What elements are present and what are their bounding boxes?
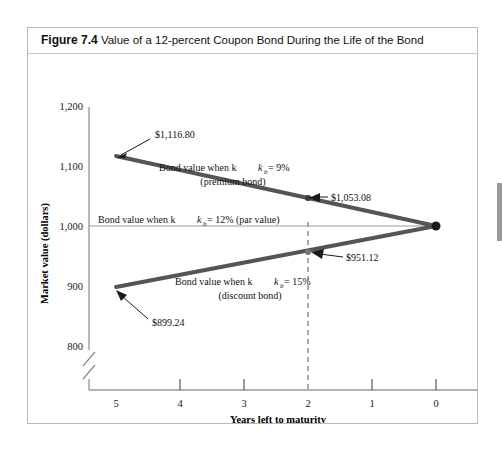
y-axis-title: Market value (dollars) <box>39 203 51 304</box>
y-tick-label-1000: 1,000 <box>59 221 83 232</box>
x-axis-title: Years left to maturity <box>230 414 327 423</box>
par-label-kb: k <box>197 214 202 225</box>
x-tick-label-4: 4 <box>177 398 183 409</box>
x-tick-label-2: 2 <box>305 398 310 409</box>
x-tick-label-3: 3 <box>241 398 246 409</box>
y-tick-label-1100: 1,100 <box>59 161 83 172</box>
annotation-discount-start: $899.24 <box>116 290 185 328</box>
annotation-premium-line-label: Bond value when k k b = 9% (premium bond… <box>159 162 289 188</box>
premium-label-line2: (premium bond) <box>200 176 265 188</box>
y-axis-break-mark-bottom <box>83 365 95 379</box>
y-tick-label-900: 900 <box>67 281 83 292</box>
discount-label-kb: k <box>274 276 279 287</box>
par-label-part1: Bond value when k <box>98 214 176 225</box>
discount-label-line1-part1: Bond value when k <box>175 276 253 287</box>
annotation-discount-midpoint-label: $951.12 <box>346 252 379 263</box>
annotation-discount-midpoint: $951.12 <box>311 249 379 263</box>
x-tick-label-5: 5 <box>113 398 118 409</box>
premium-label-kb: k <box>258 162 263 173</box>
y-axis-break-mark-top <box>83 352 95 366</box>
discount-label-line2: (discount bond) <box>218 290 281 302</box>
annotation-discount-line-label: Bond value when k k b = 15% (discount bo… <box>175 276 310 302</box>
annotation-premium-midpoint-label: $1,053.08 <box>331 192 371 203</box>
chart-plot-area: 1,200 1,100 1,000 900 800 Market value (… <box>28 54 477 423</box>
discount-year2-marker <box>305 249 311 255</box>
x-tick-label-0: 0 <box>433 398 438 409</box>
y-tick-label-1200: 1,200 <box>59 101 83 112</box>
discount-label-line1-part2: = 15% <box>284 276 310 287</box>
page-edge-artifact <box>497 183 502 241</box>
figure-caption: Figure 7.4 Value of a 12-percent Coupon … <box>28 28 477 54</box>
figure-container: Figure 7.4 Value of a 12-percent Coupon … <box>27 27 478 424</box>
y-tick-label-800: 800 <box>67 341 83 352</box>
annotation-premium-midpoint: $1,053.08 <box>309 192 371 203</box>
convergence-point-marker <box>432 222 441 231</box>
x-tick-label-1: 1 <box>369 398 374 409</box>
premium-label-line1-part1: Bond value when k <box>159 162 237 173</box>
annotation-discount-start-label: $899.24 <box>152 317 185 328</box>
premium-label-line1-part2: = 9% <box>268 162 289 173</box>
annotation-premium-start-label: $1,116.80 <box>155 129 195 140</box>
figure-caption-text: Value of a 12-percent Coupon Bond During… <box>101 34 424 46</box>
figure-number: Figure 7.4 <box>41 33 98 47</box>
annotation-premium-start: $1,116.80 <box>116 129 195 158</box>
par-label-part2: = 12% (par value) <box>207 214 280 226</box>
